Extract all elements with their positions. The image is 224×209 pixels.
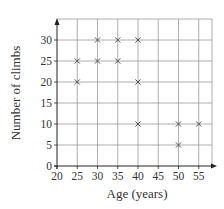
x-tick-label: 30 [92, 170, 104, 182]
grid-lines [57, 19, 212, 166]
y-tick-label: 10 [41, 118, 53, 130]
x-tick-label: 40 [132, 170, 144, 182]
x-tick-label: 20 [51, 170, 63, 182]
y-tick-label: 0 [46, 160, 52, 172]
x-tick-label: 35 [112, 170, 124, 182]
x-tick-labels: 2025303540455055 [51, 170, 205, 182]
y-tick-label: 5 [46, 139, 52, 151]
y-tick-labels: 051015202530 [41, 34, 53, 172]
y-tick-label: 25 [41, 55, 53, 67]
y-tick-label: 15 [41, 97, 53, 109]
x-axis-label: Age (years) [107, 186, 168, 201]
y-tick-label: 30 [41, 34, 53, 46]
x-tick-label: 55 [193, 170, 205, 182]
axes [54, 18, 217, 169]
x-tick-label: 50 [173, 170, 185, 182]
x-tick-label: 25 [72, 170, 84, 182]
y-axis-label: Number of climbs [8, 46, 23, 141]
x-tick-label: 45 [153, 170, 165, 182]
y-tick-label: 20 [41, 76, 53, 88]
x-axis-arrow-icon [211, 164, 217, 169]
scatter-chart: 2025303540455055 051015202530 Age (years… [0, 0, 224, 209]
